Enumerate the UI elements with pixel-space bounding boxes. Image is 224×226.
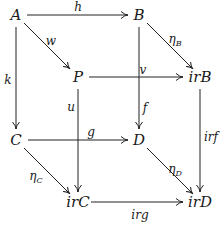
label-v: v xyxy=(140,64,147,76)
eta-subscript: B xyxy=(176,39,182,48)
eta-subscript: C xyxy=(37,176,43,185)
label-eta-d: ηD xyxy=(168,163,182,178)
label-eta-c: ηC xyxy=(29,170,42,185)
label-h: h xyxy=(74,1,82,13)
label-irf: irf xyxy=(204,131,218,143)
node-c: C xyxy=(10,133,21,148)
eta-subscript: D xyxy=(175,169,181,178)
label-w: w xyxy=(46,35,56,47)
label-g: g xyxy=(87,126,95,138)
node-d: D xyxy=(132,133,146,148)
node-ir-b: irB xyxy=(188,70,213,85)
node-ir-d: irD xyxy=(187,195,213,210)
label-k: k xyxy=(4,74,11,86)
node-b: B xyxy=(133,8,144,23)
label-f: f xyxy=(143,102,147,114)
label-eta-b: ηB xyxy=(168,33,181,48)
label-irg: irg xyxy=(131,209,148,221)
node-a: A xyxy=(11,8,22,23)
node-p: P xyxy=(72,70,84,85)
node-ir-c: irC xyxy=(65,195,90,210)
label-u: u xyxy=(67,101,75,113)
commutative-diagram: A B P irB C D irC irD h w k ηB v u f irf… xyxy=(0,0,224,226)
